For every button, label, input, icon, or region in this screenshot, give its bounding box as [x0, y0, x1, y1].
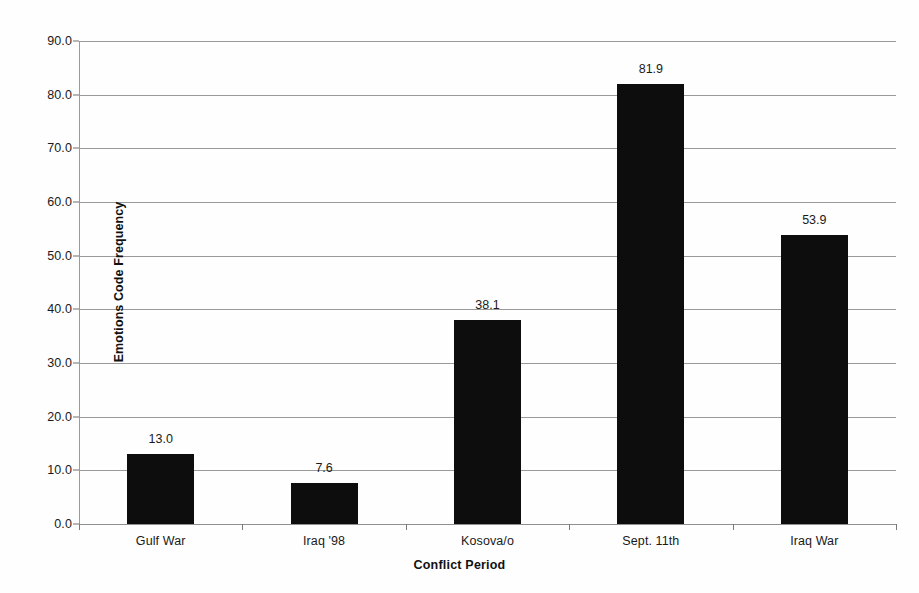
y-tick-label: 90.0: [47, 34, 72, 48]
x-tick-mark: [79, 524, 80, 530]
y-tick-label: 30.0: [47, 356, 72, 370]
bar[interactable]: [617, 84, 684, 524]
x-tick-label: Kosova/o: [461, 534, 514, 548]
x-tick-mark: [242, 524, 243, 530]
x-tick-label: Iraq '98: [303, 534, 345, 548]
gridline: [79, 256, 896, 257]
bar-chart-figure: 0.010.020.030.040.050.060.070.080.090.0 …: [0, 0, 919, 593]
x-tick-mark: [569, 524, 570, 530]
bar[interactable]: [291, 483, 358, 524]
bar[interactable]: [454, 320, 521, 524]
bar[interactable]: [781, 235, 848, 524]
y-tick-label: 60.0: [47, 195, 72, 209]
y-tick-label: 20.0: [47, 410, 72, 424]
gridline: [79, 202, 896, 203]
y-tick-label: 0.0: [54, 517, 72, 531]
x-tick-mark: [896, 524, 897, 530]
x-tick-label: Iraq War: [790, 534, 838, 548]
y-tick-label: 10.0: [47, 463, 72, 477]
y-tick-label: 50.0: [47, 249, 72, 263]
gridline: [79, 41, 896, 42]
bar-value-label: 7.6: [315, 461, 332, 475]
x-tick-mark: [733, 524, 734, 530]
gridline: [79, 148, 896, 149]
gridline: [79, 95, 896, 96]
bar-value-label: 38.1: [475, 298, 499, 312]
y-tick-label: 40.0: [47, 302, 72, 316]
x-axis-title: Conflict Period: [0, 558, 919, 572]
x-tick-label: Gulf War: [136, 534, 186, 548]
x-tick-mark: [406, 524, 407, 530]
plot-area: [79, 41, 896, 524]
y-axis-title: Emotions Code Frequency: [112, 162, 126, 402]
y-tick-label: 80.0: [47, 88, 72, 102]
y-tick-label: 70.0: [47, 141, 72, 155]
bar-value-label: 81.9: [639, 62, 663, 76]
x-tick-label: Sept. 11th: [622, 534, 679, 548]
gridline: [79, 524, 896, 525]
bar[interactable]: [127, 454, 194, 524]
bar-value-label: 53.9: [802, 213, 826, 227]
bar-value-label: 13.0: [149, 432, 173, 446]
